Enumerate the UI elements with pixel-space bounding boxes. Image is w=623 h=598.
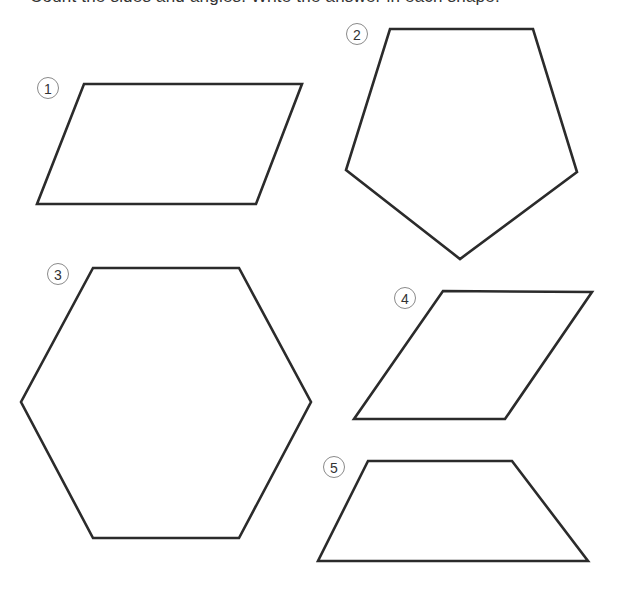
- shape-1-parallelogram[interactable]: [37, 84, 302, 204]
- shape-2-number-label: 2: [347, 24, 368, 45]
- shape-4-group[interactable]: 4: [354, 288, 592, 420]
- shape-number: 4: [401, 291, 409, 307]
- shapes-canvas: 1 2 3 4 5: [0, 0, 623, 598]
- shape-1-group[interactable]: 1: [37, 78, 302, 205]
- shape-2-group[interactable]: 2: [346, 24, 577, 260]
- shape-number: 1: [44, 81, 52, 97]
- shape-5-group[interactable]: 5: [318, 457, 588, 562]
- shape-number: 3: [54, 267, 62, 283]
- shape-number: 2: [353, 27, 361, 43]
- shape-3-hexagon[interactable]: [21, 268, 311, 538]
- shape-4-number-label: 4: [395, 288, 416, 309]
- shape-5-trapezoid[interactable]: [318, 461, 588, 561]
- shape-1-number-label: 1: [38, 78, 59, 99]
- shape-4-rhombus[interactable]: [354, 291, 592, 419]
- shape-3-group[interactable]: 3: [21, 264, 311, 539]
- shape-3-number-label: 3: [48, 264, 69, 285]
- shape-5-number-label: 5: [324, 457, 345, 478]
- shape-number: 5: [330, 460, 338, 476]
- shape-2-pentagon[interactable]: [346, 29, 577, 259]
